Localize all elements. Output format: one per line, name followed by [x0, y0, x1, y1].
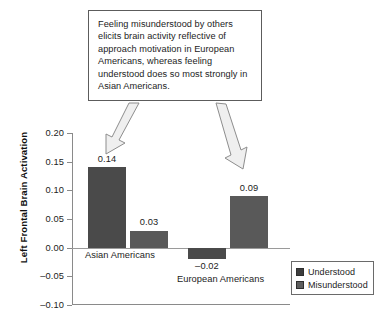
legend-item-misunderstood[interactable]: Misunderstood [296, 278, 368, 291]
x-category-label-asian: Asian Americans [85, 250, 155, 260]
y-tick [67, 162, 72, 163]
y-tick-label: –0.05 [40, 271, 64, 281]
y-tick [67, 190, 72, 191]
y-tick [67, 276, 72, 277]
bar-asian-misunderstood [130, 231, 168, 248]
y-tick-label: 0.00 [46, 243, 65, 253]
bar-value-label: –0.02 [188, 261, 226, 271]
y-axis-spine [72, 133, 73, 305]
y-tick-label: 0.15 [46, 157, 65, 167]
legend-label: Misunderstood [308, 280, 368, 290]
zero-line [72, 248, 290, 249]
legend-item-understood[interactable]: Understood [296, 265, 368, 278]
y-tick-label: 0.20 [46, 128, 65, 138]
y-tick [67, 133, 72, 134]
x-axis-spine [72, 304, 290, 305]
y-axis-title: Left Frontal Brain Activation [18, 108, 29, 288]
legend-swatch-misunderstood [296, 281, 304, 289]
annotation-callout: Feeling misunderstood by others elicits … [88, 10, 262, 101]
chart-figure: Feeling misunderstood by others elicits … [0, 0, 391, 322]
y-tick-label: 0.05 [46, 214, 65, 224]
plot-area: 0.20 0.15 0.10 0.05 0.00 –0.05 –0.10 0.1… [72, 133, 290, 305]
bar-value-label: 0.09 [230, 183, 268, 193]
x-category-label-european: European Americans [177, 274, 264, 284]
chart-legend: Understood Misunderstood [291, 261, 374, 295]
y-tick [67, 219, 72, 220]
bar-value-label: 0.03 [130, 217, 168, 227]
annotation-text: Feeling misunderstood by others elicits … [98, 19, 247, 91]
legend-swatch-understood [296, 268, 304, 276]
bar-value-label: 0.14 [88, 154, 126, 164]
bar-asian-understood [88, 167, 126, 247]
y-tick [67, 305, 72, 306]
y-tick-label: –0.10 [40, 300, 64, 310]
y-tick-label: 0.10 [46, 185, 65, 195]
bar-european-misunderstood [230, 196, 268, 248]
bar-european-understood [188, 248, 226, 260]
legend-label: Understood [308, 267, 355, 277]
